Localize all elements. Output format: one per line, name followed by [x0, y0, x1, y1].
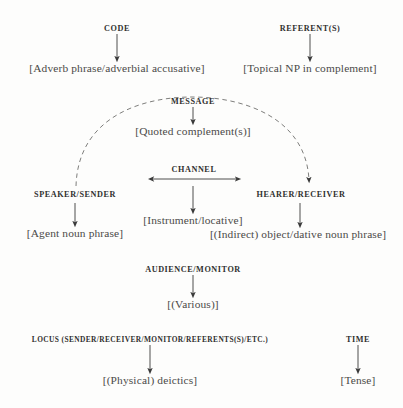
node-label-hearer-receiver: HEARER/RECEIVER [257, 191, 346, 199]
node-label-time: TIME [346, 336, 370, 344]
node-label-locus: LOCUS (SENDER/RECEIVER/MONITOR/REFERENTS… [32, 336, 268, 343]
node-realization-audience-monitor: [(Various)] [167, 299, 219, 310]
node-label-speaker-sender: SPEAKER/SENDER [34, 191, 116, 199]
node-label-referents: REFERENT(S) [280, 25, 341, 33]
node-realization-speaker-sender: [Agent noun phrase] [27, 228, 123, 239]
node-realization-hearer-receiver: [(Indirect) object/dative noun phrase] [210, 229, 386, 240]
node-realization-locus: [(Physical) deictics] [103, 375, 198, 386]
node-label-audience-monitor: AUDIENCE/MONITOR [145, 266, 241, 274]
node-label-channel: CHANNEL [172, 166, 217, 174]
node-realization-message: [Quoted complement(s)] [135, 126, 251, 137]
node-realization-code: [Adverb phrase/adverbial accusative] [29, 63, 205, 74]
node-realization-channel: [Instrument/locative] [143, 215, 242, 226]
node-label-message: MESSAGE [171, 98, 215, 106]
node-realization-time: [Tense] [340, 375, 375, 386]
node-label-code: CODE [104, 25, 130, 33]
communication-model-diagram: CODE [Adverb phrase/adverbial accusative… [0, 0, 403, 408]
node-realization-referents: [Topical NP in complement] [243, 63, 376, 74]
